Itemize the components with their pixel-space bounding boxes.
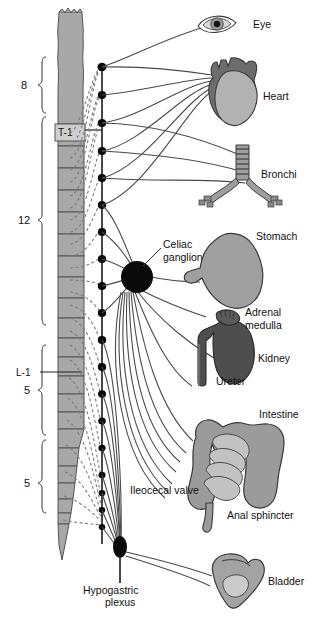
thoracic-vertebrae: [58, 124, 84, 357]
organ-label-stomach: Stomach: [256, 230, 298, 242]
cervical-cord-segment: [58, 12, 84, 128]
organ-label-kidney: Kidney: [258, 352, 291, 364]
organ-label-anal-sphincter: Anal sphincter: [227, 509, 294, 521]
segment-label-l1: L-1: [16, 367, 31, 378]
organ-label-ileocecal-valve: Ileocecal valve: [130, 484, 199, 496]
celiac-ganglion-label-line2: ganglion: [163, 251, 203, 263]
organ-label-heart: Heart: [263, 90, 289, 102]
organ-label-adrenal-line2: medulla: [245, 319, 282, 331]
organ-label-bronchi: Bronchi: [261, 168, 297, 180]
hypogastric-plexus-label-line1: Hypogastric: [83, 584, 138, 596]
organ-label-ureter: Ureter: [216, 375, 246, 387]
celiac-ganglion: [121, 261, 153, 293]
organ-label-intestine: Intestine: [259, 408, 299, 420]
sympathetic-nervous-system-diagram: 8 12 5 5 T-1 L-1: [0, 0, 313, 618]
bracket-count-12: 12: [18, 214, 30, 226]
bracket-count-8: 8: [21, 79, 27, 91]
organ-label-adrenal-line1: Adrenal: [245, 306, 281, 318]
organ-label-bladder: Bladder: [268, 575, 305, 587]
hypogastric-plexus-label-line2: plexus: [105, 596, 135, 608]
bracket-count-5-lumbar: 5: [24, 384, 30, 396]
celiac-ganglion-label-line1: Celiac: [163, 238, 192, 250]
bracket-count-5-sacral: 5: [24, 477, 30, 489]
hypogastric-plexus: [113, 536, 127, 558]
organ-label-eye: Eye: [253, 18, 271, 30]
